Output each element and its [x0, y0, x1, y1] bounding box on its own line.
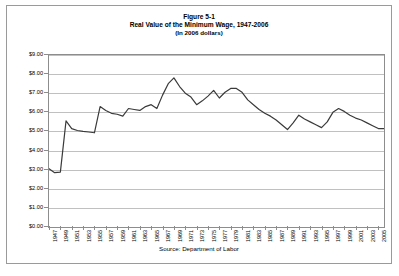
x-tick-mark — [344, 226, 345, 230]
figure-frame: Figure 5-1 Real Value of the Minimum Wag… — [6, 5, 392, 264]
figure-title-block: Figure 5-1 Real Value of the Minimum Wag… — [7, 13, 391, 37]
x-tick-label: 1981 — [245, 230, 251, 242]
x-tick-mark — [128, 226, 129, 230]
x-tick-mark — [310, 226, 311, 230]
x-tick-mark — [140, 226, 141, 230]
x-tick-label: 1985 — [267, 230, 273, 242]
x-tick-mark — [299, 226, 300, 230]
y-tick-label: $4.00 — [29, 147, 43, 153]
x-tick-label: 1983 — [256, 230, 262, 242]
x-tick-mark — [72, 226, 73, 230]
x-tick-label: 1989 — [290, 230, 296, 242]
x-tick-label: 1975 — [211, 230, 217, 242]
x-tick-label: 1953 — [86, 230, 92, 242]
x-tick-label: 1977 — [222, 230, 228, 242]
x-tick-mark — [117, 226, 118, 230]
y-tick-label: $6.00 — [29, 108, 43, 114]
x-tick-mark — [265, 226, 266, 230]
x-tick-mark — [276, 226, 277, 230]
x-tick-label: 2001 — [358, 230, 364, 242]
plot-area — [48, 54, 385, 228]
x-tick-mark — [219, 226, 220, 230]
series-polyline — [49, 78, 384, 173]
x-tick-label: 1979 — [233, 230, 239, 242]
y-axis: $9.00$8.00$7.00$6.00$5.00$4.00$3.00$2.00… — [7, 54, 46, 228]
x-tick-mark — [197, 226, 198, 230]
x-tick-mark — [83, 226, 84, 230]
y-tick-label: $3.00 — [29, 166, 43, 172]
source-note: Source: Department of Labor — [7, 245, 391, 252]
x-tick-mark — [253, 226, 254, 230]
x-tick-label: 1957 — [108, 230, 114, 242]
x-tick-label: 1997 — [335, 230, 341, 242]
x-tick-mark — [242, 226, 243, 230]
x-tick-label: 1967 — [165, 230, 171, 242]
y-tick-label: $9.00 — [29, 51, 43, 57]
minimum-wage-line-series — [49, 55, 384, 227]
x-tick-label: 1987 — [279, 230, 285, 242]
x-tick-label: 1969 — [177, 230, 183, 242]
x-tick-label: 1949 — [63, 230, 69, 242]
x-tick-mark — [208, 226, 209, 230]
y-tick-label: $1.00 — [29, 204, 43, 210]
x-tick-mark — [356, 226, 357, 230]
x-tick-label: 1965 — [154, 230, 160, 242]
x-tick-mark — [60, 226, 61, 230]
x-tick-label: 2005 — [381, 230, 387, 242]
x-tick-label: 1993 — [313, 230, 319, 242]
x-tick-mark — [185, 226, 186, 230]
y-tick-label: $8.00 — [29, 70, 43, 76]
x-tick-label: 1963 — [142, 230, 148, 242]
x-tick-label: 1961 — [131, 230, 137, 242]
x-tick-label: 1947 — [52, 230, 58, 242]
x-tick-mark — [231, 226, 232, 230]
x-tick-mark — [151, 226, 152, 230]
x-tick-mark — [378, 226, 379, 230]
x-tick-label: 1971 — [188, 230, 194, 242]
y-tick-label: $7.00 — [29, 89, 43, 95]
figure-subtitle: (In 2006 dollars) — [7, 29, 391, 37]
x-tick-label: 1973 — [199, 230, 205, 242]
x-tick-mark — [174, 226, 175, 230]
y-tick-label: $0.00 — [29, 223, 43, 229]
figure-number: Figure 5-1 — [7, 13, 391, 21]
y-tick-label: $5.00 — [29, 127, 43, 133]
x-tick-mark — [94, 226, 95, 230]
y-tick-label: $2.00 — [29, 185, 43, 191]
x-tick-mark — [163, 226, 164, 230]
x-tick-label: 1995 — [324, 230, 330, 242]
x-tick-mark — [322, 226, 323, 230]
x-tick-label: 2003 — [370, 230, 376, 242]
x-tick-label: 1999 — [347, 230, 353, 242]
x-tick-mark — [106, 226, 107, 230]
x-tick-label: 1955 — [97, 230, 103, 242]
x-tick-mark — [49, 226, 50, 230]
x-tick-label: 1991 — [301, 230, 307, 242]
x-tick-mark — [367, 226, 368, 230]
x-tick-label: 1959 — [120, 230, 126, 242]
x-tick-label: 1951 — [74, 230, 80, 242]
x-tick-mark — [287, 226, 288, 230]
x-tick-mark — [333, 226, 334, 230]
figure-title: Real Value of the Minimum Wage, 1947-200… — [7, 21, 391, 29]
